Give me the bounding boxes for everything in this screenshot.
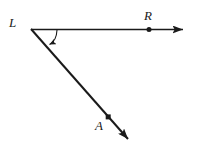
point-label-A: A xyxy=(95,119,103,132)
point-marker-R xyxy=(147,27,152,32)
geometry-figure: L R A xyxy=(0,0,200,149)
point-label-L: L xyxy=(9,16,16,29)
ray-LA xyxy=(31,29,128,139)
angle-arc-RLA xyxy=(50,30,58,45)
point-marker-A xyxy=(106,114,111,119)
point-label-R: R xyxy=(144,9,152,22)
